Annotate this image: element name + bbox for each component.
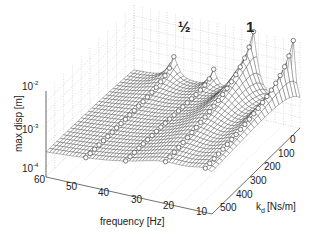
peak-annotation-half: ½ xyxy=(178,18,191,35)
ridge-marker xyxy=(136,104,140,108)
ridge-marker xyxy=(163,121,167,125)
ridge-marker xyxy=(154,85,158,89)
x-tick-label: 20 xyxy=(163,200,175,211)
ridge-marker xyxy=(141,99,145,103)
ridge-marker xyxy=(212,104,216,108)
ridge-marker xyxy=(137,146,141,150)
ridge-marker xyxy=(265,94,269,98)
ridge-marker xyxy=(203,166,207,170)
ridge-marker xyxy=(110,130,114,134)
ridge-marker xyxy=(150,90,154,94)
y-tick-label: 300 xyxy=(250,175,267,186)
ridge-marker xyxy=(84,155,88,159)
ridge-marker xyxy=(221,92,225,96)
ridge-marker xyxy=(176,109,180,113)
y-axis-label: kd[Ns/m] xyxy=(256,201,296,214)
ridge-marker xyxy=(203,115,207,119)
ridge-marker xyxy=(181,140,185,144)
ridge-marker xyxy=(198,88,202,92)
ridge-marker xyxy=(212,157,216,161)
z-tick-label: 10-3 xyxy=(22,123,39,135)
ridge-marker xyxy=(194,125,198,129)
ridge-marker xyxy=(278,73,282,77)
ridge-marker xyxy=(181,105,185,109)
ridge-marker xyxy=(269,88,273,92)
ridge-marker xyxy=(167,66,171,70)
ridge-marker xyxy=(199,120,203,124)
ridge-marker xyxy=(158,80,162,84)
ridge-marker xyxy=(243,122,247,126)
ridge-marker xyxy=(97,143,101,147)
z-tick-label: 10-4 xyxy=(22,162,39,174)
ridge-marker xyxy=(216,152,220,156)
ridge-marker xyxy=(243,56,247,60)
ridge-marker xyxy=(282,65,286,69)
z-axis-label: max disp [m] xyxy=(13,95,24,152)
ridge-marker xyxy=(229,80,233,84)
ridge-marker xyxy=(190,130,194,134)
ridge-marker xyxy=(230,137,234,141)
ridge-marker xyxy=(238,65,242,69)
x-tick-label: 10 xyxy=(196,206,208,217)
ridge-marker xyxy=(208,161,212,165)
ridge-marker xyxy=(172,55,176,59)
x-tick-label: 30 xyxy=(131,194,143,205)
ridge-marker xyxy=(163,74,167,78)
ridge-marker xyxy=(234,132,238,136)
ridge-marker xyxy=(132,108,136,112)
surface-chart: 10-2 10-3 10-4 max disp [m] 60 50 40 30 … xyxy=(0,0,312,239)
ridge-marker xyxy=(159,125,163,129)
ridge-marker xyxy=(123,117,127,121)
x-tick-label: 40 xyxy=(98,187,110,198)
ridge-marker xyxy=(238,127,242,131)
z-tick-labels: 10-2 10-3 10-4 xyxy=(22,80,39,174)
peak-annotation-one: 1 xyxy=(246,18,254,35)
y-tick-label: 0 xyxy=(290,134,296,145)
ridge-marker xyxy=(150,133,154,137)
ridge-marker xyxy=(225,142,229,146)
ridge-marker xyxy=(172,113,176,117)
ridge-marker xyxy=(221,147,225,151)
ridge-marker xyxy=(141,142,145,146)
ridge-marker xyxy=(216,98,220,102)
ridge-marker xyxy=(194,92,198,96)
ridge-marker xyxy=(207,109,211,113)
ridge-marker xyxy=(167,117,171,121)
ridge-marker xyxy=(92,147,96,151)
ridge-marker xyxy=(132,150,136,154)
y-tick-label: 200 xyxy=(264,161,281,172)
ridge-marker xyxy=(123,159,127,163)
ridge-marker xyxy=(101,138,105,142)
ridge-marker xyxy=(207,77,211,81)
y-tick-label: 100 xyxy=(278,148,295,159)
ridge-marker xyxy=(252,112,256,116)
ridge-marker xyxy=(189,97,193,101)
ridge-marker xyxy=(260,100,264,104)
ridge-marker xyxy=(274,81,278,85)
ridge-marker xyxy=(177,145,181,149)
x-tick-label: 60 xyxy=(34,174,46,185)
ridge-marker xyxy=(291,38,295,42)
grid-line xyxy=(134,27,300,64)
y-tick-label: 400 xyxy=(236,189,253,200)
ridge-marker xyxy=(145,95,149,99)
ridge-marker xyxy=(145,138,149,142)
ridge-marker xyxy=(114,126,118,130)
y-tick-label: 500 xyxy=(220,202,237,213)
ridge-marker xyxy=(287,54,291,58)
x-axis-label: frequency [Hz] xyxy=(100,216,165,227)
ridge-marker xyxy=(234,73,238,77)
ridge-marker xyxy=(88,151,92,155)
ridge-marker xyxy=(128,154,132,158)
ridge-marker xyxy=(154,129,158,133)
ridge-marker xyxy=(211,67,215,71)
ridge-marker xyxy=(185,135,189,139)
ridge-marker xyxy=(119,121,123,125)
ridge-marker xyxy=(106,134,110,138)
ridge-marker xyxy=(163,160,167,164)
ridge-marker xyxy=(172,150,176,154)
ridge-marker xyxy=(247,45,251,49)
ridge-marker xyxy=(247,117,251,121)
z-tick-label: 10-2 xyxy=(22,80,39,92)
ridge-marker xyxy=(256,106,260,110)
